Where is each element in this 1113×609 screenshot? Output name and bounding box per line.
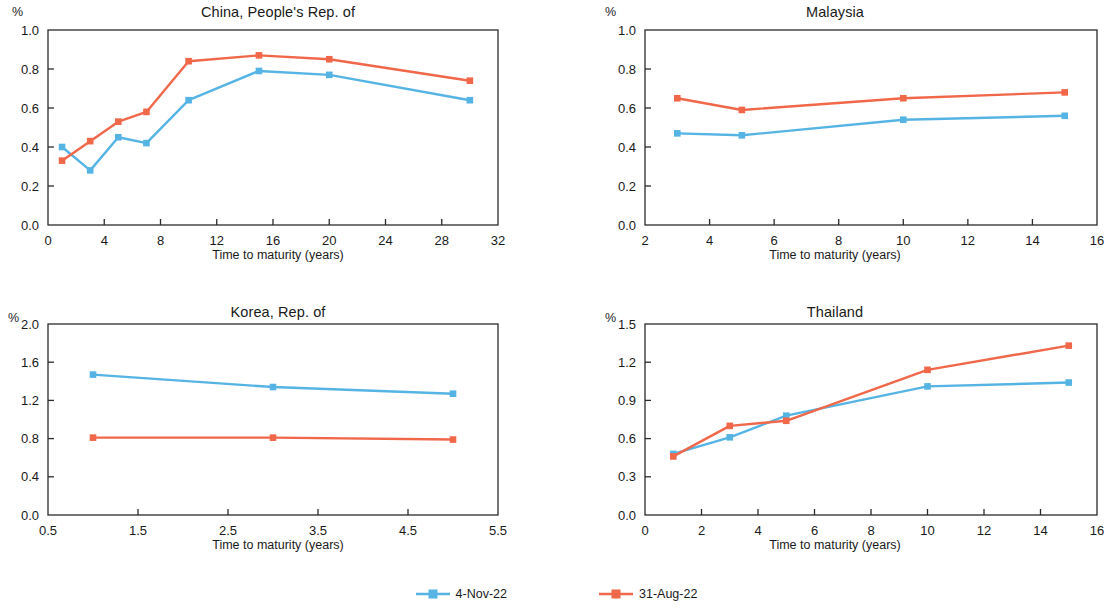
x-tick-label: 14 bbox=[1025, 233, 1039, 248]
y-tick-label: 1.6 bbox=[21, 355, 39, 370]
legend-label-4-nov-22: 4-Nov-22 bbox=[456, 587, 507, 601]
y-tick-label: 1.2 bbox=[618, 355, 636, 370]
chart-panel-china: China, People's Rep. of % 0.00.20.40.60.… bbox=[0, 0, 556, 300]
data-point-marker bbox=[674, 130, 681, 137]
data-point-marker bbox=[467, 97, 474, 104]
data-series-31-aug-22 bbox=[674, 89, 1068, 113]
x-tick-label: 16 bbox=[1090, 233, 1104, 248]
data-point-marker bbox=[143, 140, 150, 147]
yield-curve-figure: China, People's Rep. of % 0.00.20.40.60.… bbox=[0, 0, 1113, 609]
y-tick-label: 0.8 bbox=[21, 62, 39, 77]
x-tick-label: 2 bbox=[641, 233, 648, 248]
data-point-marker bbox=[90, 371, 97, 378]
legend-swatch-blue-icon bbox=[416, 587, 450, 601]
data-point-marker bbox=[450, 390, 457, 397]
data-point-marker bbox=[326, 72, 333, 79]
data-point-marker bbox=[115, 118, 122, 125]
data-series-31-aug-22 bbox=[59, 52, 473, 164]
x-tick-label: 4 bbox=[101, 233, 108, 248]
data-point-marker bbox=[726, 423, 733, 430]
x-tick-label: 6 bbox=[811, 523, 818, 538]
x-tick-label: 12 bbox=[210, 233, 224, 248]
y-tick-label: 0.2 bbox=[21, 179, 39, 194]
data-point-marker bbox=[256, 68, 263, 75]
x-axis-title-china: Time to maturity (years) bbox=[0, 248, 556, 262]
data-point-marker bbox=[924, 367, 931, 374]
data-series-31-aug-22 bbox=[670, 342, 1072, 459]
data-point-marker bbox=[726, 434, 733, 441]
y-tick-label: 1.0 bbox=[21, 23, 39, 38]
y-tick-label: 0.4 bbox=[21, 140, 39, 155]
data-point-marker bbox=[739, 132, 746, 139]
data-point-marker bbox=[143, 109, 150, 116]
data-point-marker bbox=[185, 58, 192, 65]
data-point-marker bbox=[1061, 89, 1068, 96]
y-tick-label: 0.0 bbox=[618, 508, 636, 523]
plot-area-thailand: 0.00.30.60.91.21.50246810121416 bbox=[557, 300, 1113, 540]
data-point-marker bbox=[1065, 379, 1072, 386]
x-tick-label: 0 bbox=[44, 233, 51, 248]
plot-area-korea: 0.00.40.81.21.62.00.51.52.53.54.55.5 bbox=[0, 300, 556, 540]
x-tick-label: 10 bbox=[896, 233, 910, 248]
data-point-marker bbox=[783, 417, 790, 424]
chart-panel-korea: Korea, Rep. of % 0.00.40.81.21.62.00.51.… bbox=[0, 300, 556, 580]
x-tick-label: 12 bbox=[977, 523, 991, 538]
x-tick-label: 1.5 bbox=[129, 523, 147, 538]
y-tick-label: 0.8 bbox=[21, 431, 39, 446]
x-tick-label: 8 bbox=[867, 523, 874, 538]
legend-label-31-aug-22: 31-Aug-22 bbox=[639, 587, 697, 601]
x-tick-label: 5.5 bbox=[489, 523, 507, 538]
x-tick-label: 28 bbox=[435, 233, 449, 248]
data-point-marker bbox=[59, 157, 66, 164]
y-tick-label: 0.0 bbox=[21, 218, 39, 233]
data-point-marker bbox=[900, 95, 907, 102]
y-tick-label: 1.5 bbox=[618, 317, 636, 332]
y-tick-label: 0.6 bbox=[618, 431, 636, 446]
data-point-marker bbox=[59, 144, 66, 151]
data-point-marker bbox=[185, 97, 192, 104]
plot-area-china: 0.00.20.40.60.81.0048121620242832 bbox=[0, 0, 556, 250]
y-tick-label: 0.9 bbox=[618, 393, 636, 408]
x-tick-label: 24 bbox=[378, 233, 392, 248]
y-tick-label: 0.6 bbox=[21, 101, 39, 116]
y-tick-label: 0.6 bbox=[618, 101, 636, 116]
legend-item-4-nov-22: 4-Nov-22 bbox=[416, 587, 507, 601]
data-point-marker bbox=[87, 167, 94, 174]
data-point-marker bbox=[924, 383, 931, 390]
x-tick-label: 4 bbox=[706, 233, 713, 248]
data-point-marker bbox=[1061, 113, 1068, 120]
x-tick-label: 3.5 bbox=[309, 523, 327, 538]
legend-item-31-aug-22: 31-Aug-22 bbox=[599, 587, 697, 601]
data-point-marker bbox=[670, 453, 677, 460]
y-tick-label: 0.8 bbox=[618, 62, 636, 77]
chart-panel-thailand: Thailand % 0.00.30.60.91.21.502468101214… bbox=[557, 300, 1113, 580]
x-axis-title-thailand: Time to maturity (years) bbox=[557, 538, 1113, 552]
data-point-marker bbox=[87, 138, 94, 145]
y-tick-label: 1.2 bbox=[21, 393, 39, 408]
x-tick-label: 12 bbox=[961, 233, 975, 248]
y-tick-label: 0.4 bbox=[21, 469, 39, 484]
y-tick-label: 0.0 bbox=[21, 508, 39, 523]
y-tick-label: 0.0 bbox=[618, 218, 636, 233]
data-point-marker bbox=[900, 116, 907, 123]
chart-panel-malaysia: Malaysia % 0.00.20.40.60.81.024681012141… bbox=[557, 0, 1113, 300]
y-tick-label: 0.2 bbox=[618, 179, 636, 194]
data-point-marker bbox=[450, 436, 457, 443]
data-point-marker bbox=[739, 107, 746, 114]
data-point-marker bbox=[326, 56, 333, 63]
x-tick-label: 0 bbox=[641, 523, 648, 538]
data-series-31-aug-22 bbox=[90, 434, 457, 443]
data-point-marker bbox=[256, 52, 263, 59]
x-tick-label: 32 bbox=[491, 233, 505, 248]
legend-swatch-orange-icon bbox=[599, 587, 633, 601]
data-series-4-nov-22 bbox=[90, 371, 457, 397]
x-tick-label: 10 bbox=[920, 523, 934, 538]
data-point-marker bbox=[90, 434, 97, 441]
y-tick-label: 0.4 bbox=[618, 140, 636, 155]
x-tick-label: 2.5 bbox=[219, 523, 237, 538]
x-tick-label: 4.5 bbox=[399, 523, 417, 538]
data-series-4-nov-22 bbox=[674, 113, 1068, 139]
x-tick-label: 14 bbox=[1033, 523, 1047, 538]
y-tick-label: 0.3 bbox=[618, 469, 636, 484]
data-point-marker bbox=[270, 384, 277, 391]
